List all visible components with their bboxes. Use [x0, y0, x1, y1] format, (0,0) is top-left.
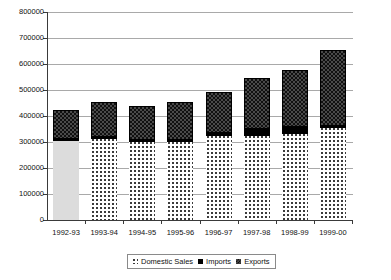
x-tick-label: 1999-00 — [310, 228, 356, 237]
bar-segment-domestic-sales — [244, 136, 270, 220]
x-tick-mark — [238, 220, 239, 224]
y-tick-label: 300000 — [0, 138, 44, 146]
legend-label-imports: Imports — [206, 257, 231, 266]
y-tick-label: 0 — [0, 216, 44, 224]
legend-label-domestic-sales: Domestic Sales — [141, 257, 193, 266]
legend-item-exports: Exports — [236, 257, 269, 266]
x-tick-mark — [314, 220, 315, 224]
bar-segment-exports — [282, 70, 308, 127]
bar-segment-domestic-sales — [53, 141, 79, 220]
bar-segment-domestic-sales — [320, 128, 346, 220]
bar-segment-exports — [244, 78, 270, 129]
legend-item-imports: Imports — [198, 257, 231, 266]
imports-swatch-icon — [198, 259, 203, 264]
bar-segment-domestic-sales — [129, 142, 155, 220]
y-tick-label: 200000 — [0, 164, 44, 172]
bar-segment-imports — [244, 129, 270, 136]
y-tick-label: 500000 — [0, 86, 44, 94]
bar-segment-domestic-sales — [206, 136, 232, 220]
y-tick-label: 100000 — [0, 190, 44, 198]
bar-segment-domestic-sales — [91, 139, 117, 220]
bar-segment-imports — [91, 137, 117, 139]
x-tick-mark — [161, 220, 162, 224]
y-tick-label: 400000 — [0, 112, 44, 120]
x-tick-mark — [85, 220, 86, 224]
bar-segment-imports — [129, 140, 155, 142]
x-tick-mark — [276, 220, 277, 224]
bar-segment-imports — [320, 126, 346, 128]
bar-segment-imports — [206, 133, 232, 136]
bar-segment-imports — [167, 140, 193, 142]
legend-item-domestic-sales: Domestic Sales — [133, 257, 193, 266]
y-tick-label: 700000 — [0, 34, 44, 42]
bar-segment-exports — [91, 102, 117, 137]
bar-segment-domestic-sales — [282, 134, 308, 220]
x-tick-mark — [200, 220, 201, 224]
chart-legend: Domestic Sales Imports Exports — [127, 254, 276, 269]
bar-segment-domestic-sales — [167, 142, 193, 220]
bar-segment-exports — [206, 92, 232, 133]
bar-segment-exports — [320, 50, 346, 126]
bar-segment-imports — [53, 139, 79, 141]
y-tick-label: 600000 — [0, 60, 44, 68]
bars-layer — [47, 12, 352, 220]
bar-segment-exports — [129, 106, 155, 140]
x-tick-mark — [123, 220, 124, 224]
domestic-sales-swatch-icon — [133, 259, 138, 264]
bar-segment-exports — [167, 102, 193, 140]
x-tick-mark — [352, 220, 353, 224]
legend-label-exports: Exports — [244, 257, 269, 266]
y-tick-label: 800000 — [0, 8, 44, 16]
gridline — [48, 220, 353, 221]
exports-swatch-icon — [236, 259, 241, 264]
bar-segment-imports — [282, 127, 308, 134]
bar-segment-exports — [53, 110, 79, 139]
stacked-bar-chart: 0100000200000300000400000500000600000700… — [0, 0, 391, 280]
